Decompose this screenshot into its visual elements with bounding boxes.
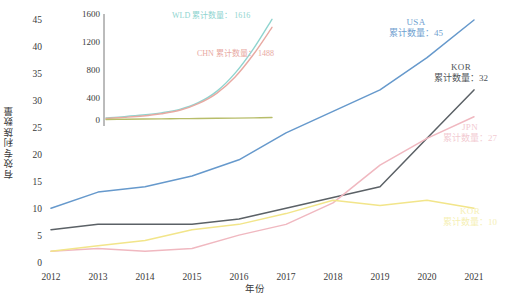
inset-y-tick-800: 800 bbox=[68, 65, 100, 75]
inset-y-tick-0: 0 bbox=[68, 115, 100, 125]
inset-y-tick-1600: 1600 bbox=[68, 9, 100, 19]
inset-y-tick-400: 400 bbox=[68, 93, 100, 103]
inset-series-line-chn bbox=[106, 27, 272, 118]
inset-series-line-oth bbox=[106, 118, 272, 120]
inset-y-tick-1200: 1200 bbox=[68, 37, 100, 47]
inset-series-line-wld bbox=[106, 19, 272, 118]
chart-root: 45 40 35 30 25 20 15 10 5 0 有效专利族数量 2012… bbox=[0, 0, 510, 301]
